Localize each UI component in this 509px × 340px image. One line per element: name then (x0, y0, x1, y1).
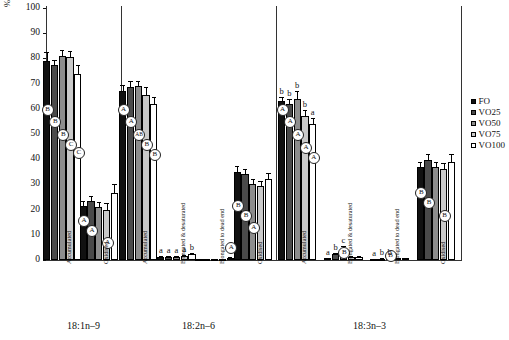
bar (51, 65, 58, 260)
x-group-label: 18:2n–6 (122, 320, 275, 331)
error-bar-cap (76, 65, 80, 66)
error-bar-cap (258, 181, 262, 182)
bar (424, 160, 431, 260)
significance-letter-label: b (187, 242, 197, 252)
error-bar-cap (166, 256, 170, 257)
bar (59, 56, 66, 260)
error-bar-cap (251, 179, 255, 180)
x-category-label: Accumulated (300, 231, 307, 264)
legend-label-vo50: VO50 (479, 119, 501, 128)
error-bar-cap (426, 154, 430, 155)
error-bar-cap (212, 259, 216, 260)
error-bar-cap (44, 52, 48, 53)
legend-label-vo25: VO25 (479, 108, 501, 117)
y-tick-label: 20 (18, 204, 40, 214)
x-category-label: Elongated & desaturated (179, 203, 186, 264)
bar (324, 258, 331, 260)
error-bar-cap (128, 81, 132, 82)
error-bar-cap (441, 163, 445, 164)
y-tick-label: 80 (18, 52, 40, 62)
error-bar-cap (205, 259, 209, 260)
error-bar-cap (333, 253, 337, 254)
error-bar-cap (235, 166, 239, 167)
y-tick-label: 0 (18, 254, 40, 264)
error-bar-cap (120, 85, 124, 86)
error-bar-cap (287, 99, 291, 100)
y-tick-label: 30 (18, 178, 40, 188)
significance-letter-label: b (292, 80, 302, 90)
error-bar-cap (97, 202, 101, 203)
x-category-label: Elongated to dead end (393, 209, 400, 264)
error-bar-cap (372, 259, 376, 260)
error-bar (78, 65, 79, 74)
significance-circle-label: B (423, 197, 435, 209)
bar (119, 91, 126, 260)
legend-item: VO25 (471, 108, 506, 117)
significance-circle-label: C (73, 147, 85, 159)
error-bar-cap (52, 60, 56, 61)
significance-circle-label: B (42, 104, 54, 116)
legend-swatch-vo25 (471, 110, 476, 115)
x-group-label: 18:3n–3 (277, 320, 462, 331)
legend-item: VO50 (471, 119, 506, 128)
legend-swatch-vo100 (471, 143, 476, 148)
error-bar (114, 184, 115, 193)
x-category-label: Accumulated (65, 231, 72, 264)
error-bar-cap (197, 259, 201, 260)
error-bar-cap (434, 162, 438, 163)
error-bar-cap (266, 173, 270, 174)
legend-item: VO100 (471, 141, 506, 150)
error-bar-cap (403, 258, 407, 259)
y-tick-label: 70 (18, 78, 40, 88)
bar (157, 257, 164, 260)
error-bar-cap (228, 257, 232, 258)
y-tick-label: 10 (18, 229, 40, 239)
error-bar-cap (68, 51, 72, 52)
legend-swatch-fo (471, 99, 476, 104)
y-tick-label: 50 (18, 128, 40, 138)
significance-letter-label: a (308, 107, 318, 117)
legend-label-vo100: VO100 (479, 141, 506, 150)
legend-label-fo: FO (479, 97, 491, 106)
x-category-label: Elongated & desaturated (346, 203, 353, 264)
y-tick-label: 100 (18, 2, 40, 12)
y-tick-label: 90 (18, 27, 40, 37)
bar (66, 57, 73, 260)
error-bar-cap (418, 162, 422, 163)
legend-swatch-vo75 (471, 132, 476, 137)
bar (43, 61, 50, 260)
bar (165, 257, 172, 260)
error-bar-cap (243, 169, 247, 170)
significance-circle-label: A (277, 104, 289, 116)
error-bar (451, 154, 452, 162)
error-bar-cap (357, 256, 361, 257)
error-bar-cap (112, 184, 116, 185)
error-bar-cap (174, 256, 178, 257)
error-bar-cap (449, 154, 453, 155)
error-bar-cap (89, 196, 93, 197)
bar (150, 104, 157, 260)
group-separator (276, 6, 277, 260)
error-bar-cap (303, 110, 307, 111)
x-group-label: 18:1n–9 (47, 320, 120, 331)
error-bar-cap (136, 81, 140, 82)
legend-swatch-vo50 (471, 121, 476, 126)
bar-chart: % of relative net intake 010203040506070… (0, 0, 509, 340)
bar (417, 167, 424, 260)
bar (355, 257, 362, 260)
y-axis-label: % of relative net intake (2, 0, 12, 40)
significance-circle-label: B (240, 210, 252, 222)
error-bar (146, 87, 147, 95)
error-bar-cap (295, 91, 299, 92)
significance-circle-label: B (149, 149, 161, 161)
significance-circle-label: A (308, 152, 320, 164)
legend-label-vo75: VO75 (479, 130, 501, 139)
error-bar-cap (380, 258, 384, 259)
significance-circle-label: A (86, 225, 98, 237)
plot-right-border (461, 6, 462, 260)
x-category-label: Oxidised (439, 242, 446, 264)
error-bar-cap (159, 256, 163, 257)
significance-circle-label: B (439, 210, 451, 222)
y-tick-label: 60 (18, 103, 40, 113)
legend-item: FO (471, 97, 506, 106)
